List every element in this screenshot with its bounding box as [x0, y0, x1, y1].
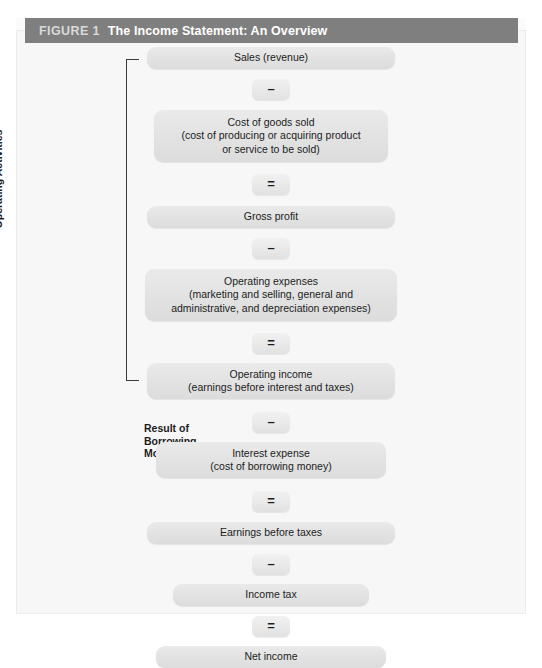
- term-box-line2: (cost of producing or acquiring product: [181, 129, 360, 143]
- term-box-cost-of-goods-sold: Cost of goods sold(cost of producing or …: [154, 110, 388, 162]
- operator-symbol: =: [267, 619, 275, 632]
- operator-symbol: –: [267, 82, 274, 95]
- operator-equals-1: =: [252, 174, 290, 195]
- flow-row: Operating income(earnings before interes…: [16, 363, 526, 399]
- term-box-gross-profit: Gross profit: [147, 206, 395, 228]
- term-box-operating-income: Operating income(earnings before interes…: [147, 363, 395, 399]
- term-box-line1: Sales (revenue): [234, 51, 308, 65]
- term-box-line1: Interest expense: [232, 447, 310, 461]
- flow-row: –: [16, 238, 526, 259]
- term-box-line1: Gross profit: [244, 210, 298, 224]
- flow-row: =: [16, 174, 526, 195]
- flow-row: Income tax: [16, 584, 526, 606]
- operator-minus-3: –: [252, 412, 290, 433]
- operator-equals-2: =: [252, 333, 290, 354]
- term-box-line3: administrative, and depreciation expense…: [171, 302, 371, 316]
- operator-minus-4: –: [252, 554, 290, 575]
- operator-symbol: =: [267, 177, 275, 190]
- income-statement-flow: Sales (revenue)–Cost of goods sold(cost …: [16, 43, 526, 614]
- term-box-line3: or service to be sold): [222, 143, 319, 157]
- operating-activities-label: Result of Operating Activities: [0, 18, 7, 340]
- flow-row: =: [16, 491, 526, 512]
- term-box-interest-expense: Interest expense(cost of borrowing money…: [156, 442, 386, 478]
- figure-number-label: FIGURE 1: [39, 24, 100, 38]
- operating-activities-label-line2: Operating Activities: [0, 130, 5, 229]
- flow-row: Gross profit: [16, 206, 526, 228]
- figure-title: The Income Statement: An Overview: [108, 24, 328, 38]
- term-box-sales-revenue: Sales (revenue): [147, 47, 395, 69]
- operator-equals-4: =: [252, 616, 290, 637]
- flow-row: Sales (revenue): [16, 47, 526, 69]
- operator-symbol: –: [267, 557, 274, 570]
- term-box-line1: Income tax: [245, 588, 296, 602]
- operator-symbol: –: [267, 415, 274, 428]
- figure-container: FIGURE 1 The Income Statement: An Overvi…: [16, 18, 526, 614]
- operator-minus-2: –: [252, 238, 290, 259]
- term-box-line1: Operating income: [230, 368, 313, 382]
- operator-equals-3: =: [252, 491, 290, 512]
- flow-row: Cost of goods sold(cost of producing or …: [16, 110, 526, 162]
- flow-row: Operating expenses(marketing and selling…: [16, 269, 526, 321]
- term-box-line1: Operating expenses: [224, 275, 318, 289]
- term-box-operating-expenses: Operating expenses(marketing and selling…: [145, 269, 397, 321]
- operator-symbol: =: [267, 494, 275, 507]
- term-box-line1: Net income: [244, 650, 297, 664]
- term-box-income-tax: Income tax: [173, 584, 369, 606]
- flow-row: Interest expense(cost of borrowing money…: [16, 442, 526, 478]
- operator-minus-1: –: [252, 79, 290, 100]
- flow-row: –: [16, 79, 526, 100]
- term-box-net-income: Net income: [156, 646, 386, 668]
- term-box-line2: (cost of borrowing money): [210, 460, 331, 474]
- figure-header-bar: FIGURE 1 The Income Statement: An Overvi…: [25, 18, 518, 43]
- flow-row: –: [16, 412, 526, 433]
- operator-symbol: –: [267, 241, 274, 254]
- term-box-line2: (marketing and selling, general and: [189, 288, 353, 302]
- flow-row: =: [16, 333, 526, 354]
- flow-row: Earnings before taxes: [16, 522, 526, 544]
- flow-row: =: [16, 616, 526, 637]
- flow-row: Net income: [16, 646, 526, 668]
- term-box-line1: Cost of goods sold: [228, 116, 315, 130]
- operator-symbol: =: [267, 336, 275, 349]
- term-box-line1: Earnings before taxes: [220, 526, 322, 540]
- term-box-line2: (earnings before interest and taxes): [188, 381, 354, 395]
- flow-row: –: [16, 554, 526, 575]
- term-box-earnings-before-taxes: Earnings before taxes: [147, 522, 395, 544]
